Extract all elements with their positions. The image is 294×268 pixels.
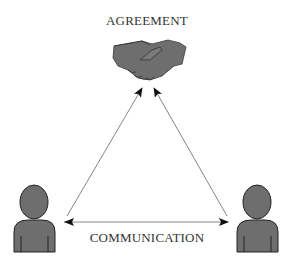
handshake-icon	[113, 40, 186, 80]
agreement-label: AGREEMENT	[0, 13, 294, 29]
communication-label: COMMUNICATION	[0, 230, 294, 246]
arrow-left-to-agreement	[67, 88, 142, 216]
diagram-canvas	[0, 0, 294, 268]
arrow-right-to-agreement	[154, 88, 227, 216]
